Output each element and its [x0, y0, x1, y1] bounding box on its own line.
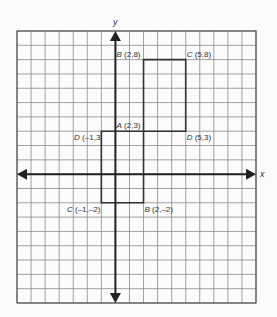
y-axis-arrow-up-icon [110, 31, 121, 41]
point-label-C-upper: C (5,8) [187, 50, 212, 59]
coordinate-grid-diagram: x y B (2,8)C (5,8)A (2,3)D (–1,3D (5,3)C… [0, 0, 277, 317]
point-label-B-upper: B (2,8) [117, 50, 141, 59]
grid-border [17, 31, 256, 303]
lower-rectangle [101, 131, 143, 203]
x-axis-arrow-right-icon [246, 169, 256, 180]
point-label-D-left: D (–1,3 [74, 133, 101, 142]
grid-lines [17, 31, 256, 303]
grid-canvas: x y B (2,8)C (5,8)A (2,3)D (–1,3D (5,3)C… [0, 0, 277, 317]
x-axis-label: x [259, 169, 265, 179]
point-label-D-right: D (5,3) [187, 133, 212, 142]
shapes [101, 60, 185, 203]
upper-rectangle [144, 60, 186, 132]
point-label-B-lower: B (2,–2) [145, 205, 174, 214]
point-label-C-lower: C (–1,–2) [67, 205, 101, 214]
x-axis-arrow-left-icon [17, 169, 27, 180]
point-label-A: A (2,3) [116, 121, 141, 130]
y-axis-label: y [112, 17, 118, 27]
y-axis-arrow-down-icon [110, 293, 121, 303]
